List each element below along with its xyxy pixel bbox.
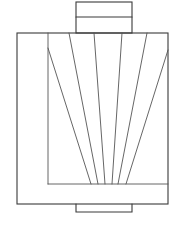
diagram-canvas	[0, 0, 177, 226]
top-tab	[76, 2, 132, 33]
fan-lines	[48, 33, 168, 184]
fan-line-4	[112, 33, 122, 184]
fan-line-3	[94, 33, 105, 184]
fan-line-6	[126, 50, 168, 184]
fan-line-5	[118, 33, 147, 184]
frame-rect	[17, 33, 168, 204]
outer-frame	[17, 33, 168, 204]
bottom-tab	[76, 204, 132, 212]
line-drawing	[0, 0, 177, 226]
bottom-tab-outline	[76, 204, 132, 212]
